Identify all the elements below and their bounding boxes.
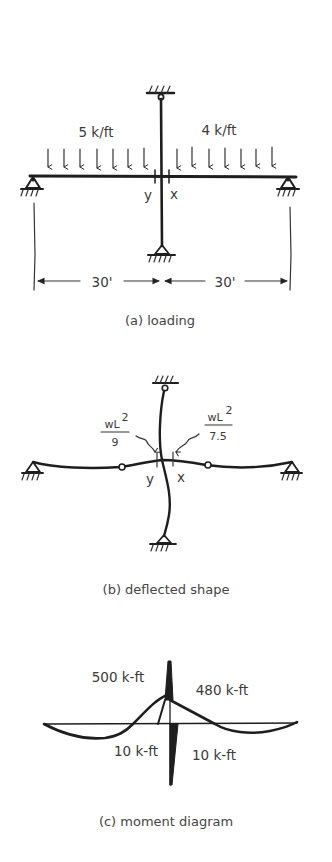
top-pin-support-icon	[147, 86, 174, 100]
hinge-right-icon	[205, 462, 211, 468]
moment-label-500: 500 k-ft	[92, 669, 145, 685]
column	[161, 99, 162, 246]
load-label-right: 4 k/ft	[201, 122, 236, 138]
caption-moment-diagram: (c) moment diagram	[99, 814, 233, 829]
moment-label-480: 480 k-ft	[196, 682, 249, 698]
top-pin-support-icon	[153, 376, 178, 391]
moment-label-10-left: 10 k-ft	[114, 743, 158, 759]
hinge-left-icon	[119, 464, 125, 470]
panel-loading: 5 k/ft 4 k/ft y x 30' 30' (a) loading	[21, 86, 299, 328]
moment-curve-left	[44, 695, 167, 738]
dimension-label-left: 30'	[92, 274, 113, 290]
svg-text:wL: wL	[104, 418, 120, 431]
column-moment-upper	[165, 661, 173, 700]
svg-text:wL: wL	[207, 411, 223, 424]
load-label-left: 5 k/ft	[78, 124, 113, 140]
beam	[30, 176, 296, 177]
left-pin-support-icon	[21, 177, 43, 196]
joint-label-x: x	[177, 469, 185, 485]
bottom-pin-support-icon	[150, 535, 176, 551]
joint-label-x: x	[170, 186, 178, 202]
joint-label-y: y	[144, 187, 152, 203]
load-arrows-right	[177, 147, 272, 168]
moment-curve-right	[170, 700, 297, 733]
rotation-label-left: wL 2 9	[101, 411, 155, 452]
rotation-label-right: wL 2 7.5	[176, 404, 233, 452]
caption-deflected-shape: (b) deflected shape	[103, 582, 230, 597]
column-moment-lower	[170, 724, 178, 785]
moment-label-10-right: 10 k-ft	[192, 747, 236, 763]
svg-text:9: 9	[112, 436, 119, 449]
svg-text:7.5: 7.5	[209, 430, 227, 443]
panel-moment-diagram: 500 k-ft 480 k-ft 10 k-ft 10 k-ft (c) mo…	[44, 661, 297, 829]
caption-loading: (a) loading	[125, 313, 195, 328]
joint-label-y: y	[146, 471, 154, 487]
right-pin-support-icon	[277, 177, 299, 196]
load-arrows-left	[48, 148, 144, 168]
svg-text:2: 2	[122, 411, 129, 424]
panel-deflected-shape: wL 2 9 wL 2 7.5 y x (b) deflected shape	[22, 376, 302, 597]
structural-figure: 5 k/ft 4 k/ft y x 30' 30' (a) loading	[0, 0, 332, 862]
deflected-column	[160, 391, 170, 536]
bottom-pin-support-icon	[148, 245, 175, 262]
dimension-label-right: 30'	[215, 274, 236, 290]
svg-text:2: 2	[226, 404, 233, 417]
